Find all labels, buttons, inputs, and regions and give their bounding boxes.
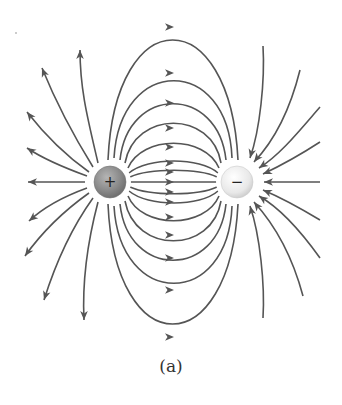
field-line	[108, 204, 238, 324]
field-line	[130, 187, 217, 194]
arrowhead-icon	[257, 160, 269, 171]
electric-dipole-diagram: +−	[0, 0, 342, 405]
field-line	[84, 202, 98, 320]
field-line	[259, 196, 320, 258]
arrowhead-icon	[165, 124, 174, 132]
field-line	[129, 191, 218, 203]
negative-sign: −	[231, 173, 244, 191]
arrowhead-icon	[165, 213, 174, 221]
arrowhead-icon	[262, 167, 273, 178]
field-line	[27, 112, 89, 172]
arrowhead-icon	[165, 143, 174, 151]
arrowhead-icon	[165, 168, 174, 176]
positive-sign: +	[104, 173, 117, 191]
arrowhead-icon	[262, 187, 273, 198]
arrowhead-icon	[257, 193, 269, 204]
arrowhead-icon	[165, 333, 174, 341]
arrowhead-icon	[165, 286, 174, 294]
field-line	[108, 40, 238, 160]
scan-speck	[15, 32, 17, 34]
arrowhead-icon	[246, 205, 256, 216]
negative-charge: −	[216, 161, 258, 203]
field-line	[27, 148, 87, 176]
arrowhead-icon	[38, 67, 48, 78]
field-line	[130, 170, 217, 177]
field-line	[259, 107, 320, 168]
arrowhead-icon	[25, 145, 37, 156]
arrowhead-icon	[165, 231, 174, 239]
arrowhead-icon	[40, 290, 50, 301]
field-line	[254, 70, 300, 162]
arrowhead-icon	[246, 148, 256, 159]
figure-caption: (a)	[0, 356, 342, 376]
field-line	[250, 46, 263, 158]
field-line	[250, 206, 263, 318]
arrowhead-icon	[165, 99, 174, 107]
field-line	[254, 202, 303, 296]
field-lines-outgoing-left	[22, 50, 98, 320]
field-line	[25, 193, 89, 256]
field-line	[29, 188, 87, 221]
field-line	[80, 50, 98, 163]
arrowhead-icon	[165, 69, 174, 77]
field-line	[42, 68, 93, 167]
field-line	[44, 198, 93, 300]
arrowhead-icon	[165, 23, 174, 31]
field-line	[120, 204, 226, 260]
arrowhead-icon	[165, 188, 174, 196]
positive-charge: +	[89, 161, 131, 203]
field-line	[120, 104, 226, 160]
